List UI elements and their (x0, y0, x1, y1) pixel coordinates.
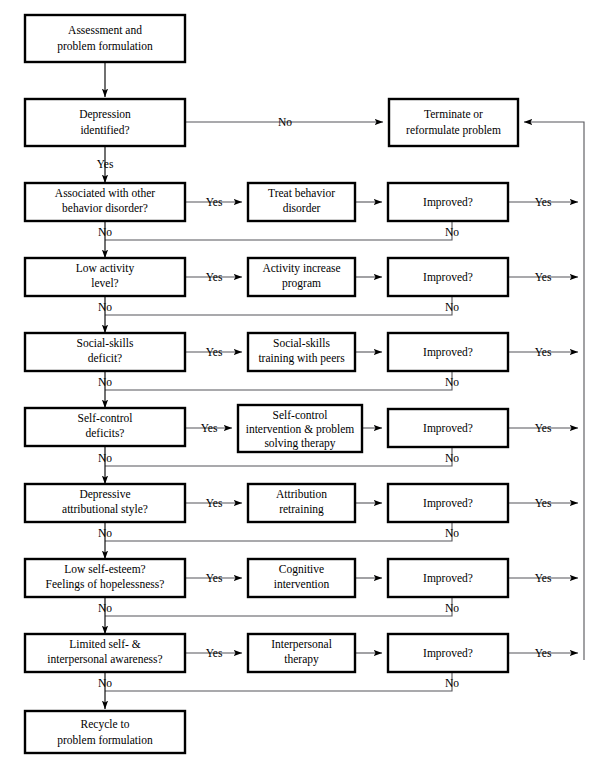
node-question-self-esteem[interactable]: Low self-esteem? Feelings of hopelessnes… (25, 559, 185, 597)
edge-label-row1-outcome-yes: Yes (535, 196, 552, 208)
terminate-box-line2: reformulate problem (406, 124, 501, 137)
node-terminate-or-reformulate[interactable]: Terminate or reformulate problem (389, 99, 518, 146)
row5-question-line1: Depressive (79, 488, 130, 501)
row4-treatment-line3: solving therapy (264, 437, 335, 450)
edge-label-row4-no: No (98, 452, 112, 464)
node-outcome-improved-3[interactable]: Improved? (388, 333, 508, 371)
edge-label-row2-outcome-yes: Yes (535, 271, 552, 283)
row2-question-line2: level? (91, 277, 118, 289)
edge-row5-outcome-no (105, 522, 452, 541)
assessment-box-line1: Assessment and (68, 24, 142, 36)
edge-label-depression-no: No (278, 116, 292, 128)
row3-question-line1: Social-skills (77, 337, 134, 349)
edge-label-depression-yes: Yes (97, 158, 114, 170)
edge-label-row7-yes: Yes (206, 647, 223, 659)
node-treatment-cognitive-intervention[interactable]: Cognitive intervention (248, 559, 355, 597)
row7-question-line1: Limited self- & (69, 638, 141, 650)
edge-return-bus-to-terminate (524, 122, 584, 660)
node-assessment-problem-formulation[interactable]: Assessment and problem formulation (25, 15, 185, 62)
node-treatment-interpersonal-therapy[interactable]: Interpersonal therapy (248, 634, 355, 672)
edge-label-row6-no: No (98, 602, 112, 614)
row4-treatment-line1: Self-control (273, 409, 328, 421)
edge-label-row4-yes: Yes (201, 422, 218, 434)
node-treatment-activity-increase[interactable]: Activity increase program (248, 258, 355, 296)
row5-outcome-label: Improved? (423, 497, 473, 510)
row4-outcome-label: Improved? (423, 422, 473, 435)
edge-label-row2-no: No (98, 301, 112, 313)
node-treatment-attribution-retraining[interactable]: Attribution retraining (248, 484, 355, 522)
row1-question-line1: Associated with other (55, 187, 155, 199)
node-treatment-self-control-intervention[interactable]: Self-control intervention & problem solv… (238, 405, 362, 452)
assessment-box-line2: problem formulation (57, 40, 153, 53)
node-outcome-improved-4[interactable]: Improved? (388, 409, 508, 447)
node-question-low-activity[interactable]: Low activity level? (25, 258, 185, 296)
node-question-social-skills[interactable]: Social-skills deficit? (25, 333, 185, 371)
node-question-attributional-style[interactable]: Depressive attributional style? (25, 484, 185, 522)
edge-label-row3-outcome-no: No (445, 376, 459, 388)
node-question-interpersonal-awareness[interactable]: Limited self- & interpersonal awareness? (25, 634, 185, 672)
row4-treatment-line2: intervention & problem (246, 423, 355, 436)
terminate-box-line1: Terminate or (424, 108, 483, 120)
edge-label-row5-outcome-no: No (445, 527, 459, 539)
edge-label-row1-outcome-no: No (445, 226, 459, 238)
connector-layer (105, 62, 584, 709)
node-outcome-improved-5[interactable]: Improved? (388, 484, 508, 522)
flowchart-canvas: No Yes Yes No Yes No Yes No Yes No Yes N… (0, 0, 610, 770)
edge-label-row1-no: No (98, 226, 112, 238)
edge-label-row7-outcome-no: No (445, 677, 459, 689)
depression-box-line1: Depression (79, 108, 131, 121)
edge-row6-outcome-no (105, 597, 452, 616)
row6-question-line2: Feelings of hopelessness? (46, 578, 165, 591)
row6-outcome-label: Improved? (423, 572, 473, 585)
node-outcome-improved-2[interactable]: Improved? (388, 258, 508, 296)
row2-treatment-line2: program (282, 277, 321, 290)
node-question-behavior-disorder[interactable]: Associated with other behavior disorder? (25, 183, 185, 221)
node-treatment-treat-behavior-disorder[interactable]: Treat behavior disorder (248, 183, 355, 221)
edge-label-row4-outcome-no: No (445, 452, 459, 464)
row5-treatment-line1: Attribution (276, 488, 327, 500)
node-outcome-improved-6[interactable]: Improved? (388, 559, 508, 597)
edge-label-row2-yes: Yes (206, 271, 223, 283)
row5-question-line2: attributional style? (62, 503, 148, 516)
row7-treatment-line2: therapy (284, 653, 319, 666)
edge-label-row6-outcome-yes: Yes (535, 572, 552, 584)
row2-outcome-label: Improved? (423, 271, 473, 284)
row7-question-line2: interpersonal awareness? (47, 653, 162, 666)
row1-treatment-line2: disorder (283, 202, 321, 214)
row6-question-line1: Low self-esteem? (64, 563, 145, 575)
edge-label-row5-outcome-yes: Yes (535, 497, 552, 509)
edge-row3-outcome-no (105, 371, 452, 390)
edge-label-row6-outcome-no: No (445, 602, 459, 614)
node-treatment-social-skills-training[interactable]: Social-skills training with peers (248, 333, 355, 371)
edge-label-row2-outcome-no: No (445, 301, 459, 313)
edge-label-row7-outcome-yes: Yes (535, 647, 552, 659)
row3-treatment-line1: Social-skills (273, 337, 330, 349)
row5-treatment-line2: retraining (279, 503, 324, 516)
row4-question-line1: Self-control (78, 412, 133, 424)
row3-outcome-label: Improved? (423, 346, 473, 359)
node-outcome-improved-1[interactable]: Improved? (388, 183, 508, 221)
edge-label-row3-outcome-yes: Yes (535, 346, 552, 358)
edge-label-row4-outcome-yes: Yes (535, 422, 552, 434)
recycle-box-line1: Recycle to (81, 718, 130, 731)
row1-treatment-line1: Treat behavior (268, 187, 335, 199)
edge-row7-outcome-no (105, 672, 452, 691)
edge-label-row3-no: No (98, 376, 112, 388)
edge-label-row6-yes: Yes (206, 572, 223, 584)
edge-label-row3-yes: Yes (206, 346, 223, 358)
node-recycle-to-problem-formulation[interactable]: Recycle to problem formulation (25, 711, 185, 753)
edge-label-row5-no: No (98, 527, 112, 539)
row7-treatment-line1: Interpersonal (271, 638, 332, 651)
row2-treatment-line1: Activity increase (262, 262, 340, 275)
edge-label-row1-yes: Yes (206, 196, 223, 208)
node-outcome-improved-7[interactable]: Improved? (388, 634, 508, 672)
node-question-self-control[interactable]: Self-control deficits? (25, 408, 185, 446)
row3-treatment-line2: training with peers (258, 352, 345, 365)
row7-outcome-label: Improved? (423, 647, 473, 660)
row2-question-line1: Low activity (76, 262, 135, 275)
edge-label-row7-no: No (98, 677, 112, 689)
node-depression-identified[interactable]: Depression identified? (25, 99, 185, 146)
row6-treatment-line1: Cognitive (279, 563, 324, 576)
edge-label-row5-yes: Yes (206, 497, 223, 509)
edge-row1-outcome-no (105, 221, 452, 240)
